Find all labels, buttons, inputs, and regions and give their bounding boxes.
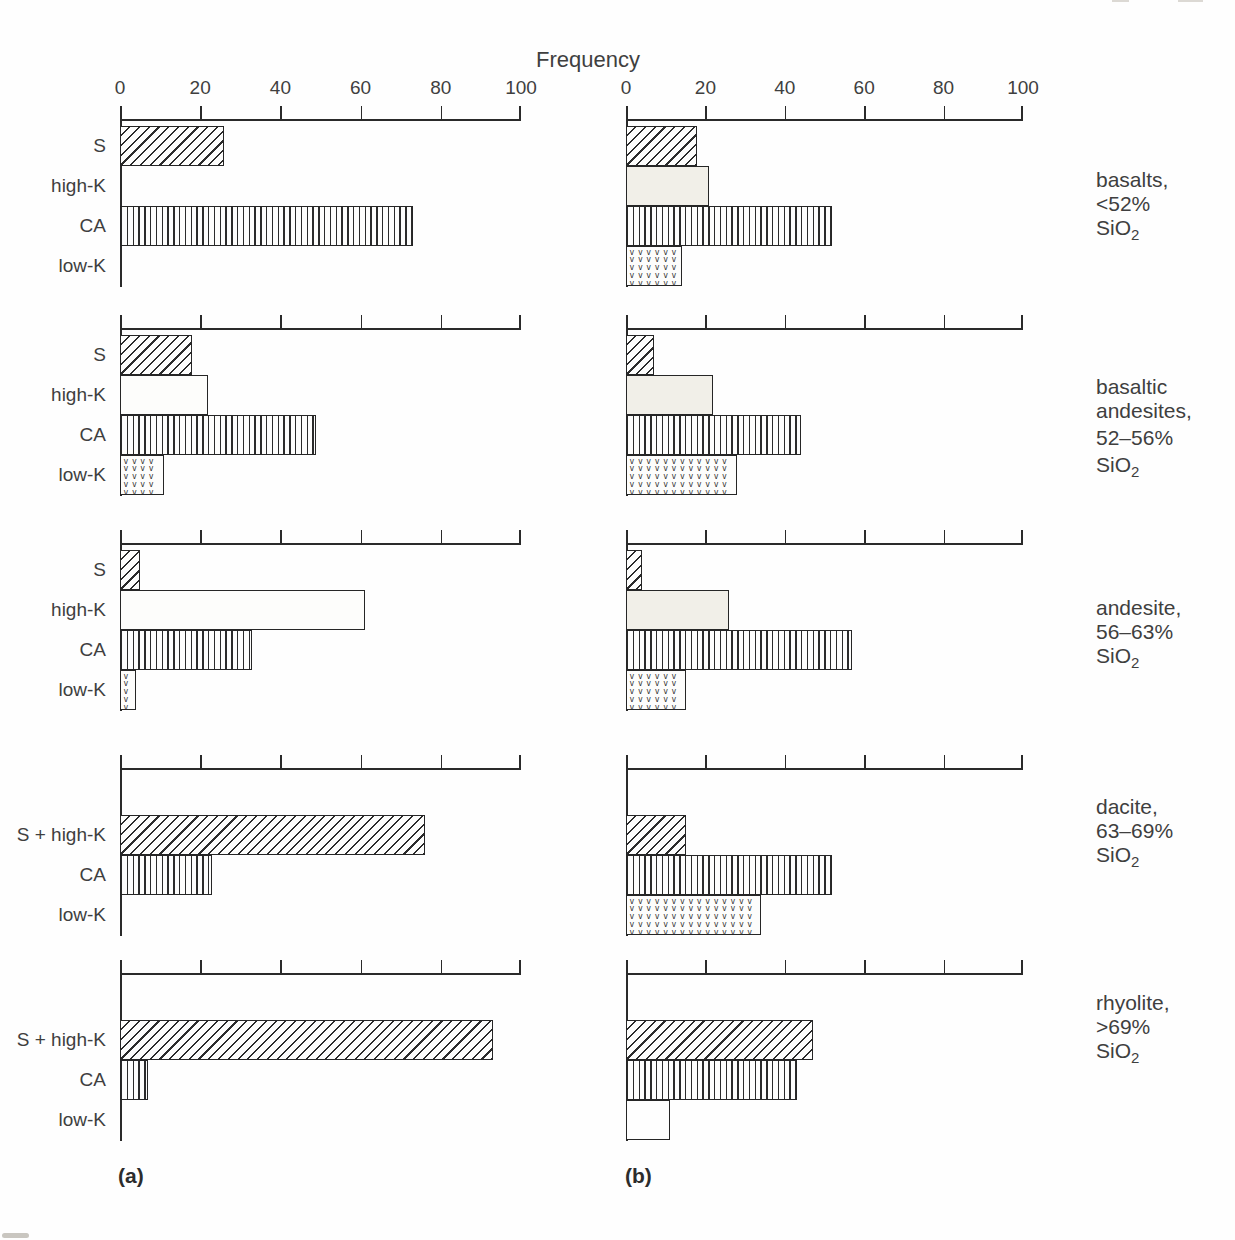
axis-tick <box>361 530 363 543</box>
axis-tick <box>1021 960 1023 973</box>
bar-label-ca: CA <box>4 630 106 670</box>
bar-label-low-k: low-K <box>4 455 106 495</box>
caption-formula: SiO2 <box>1096 644 1231 675</box>
bar-label-s-high-k: S + high-K <box>4 1020 106 1060</box>
caption-line: basalts, <box>1096 168 1231 192</box>
bar-s-high-k <box>120 815 425 855</box>
axis-tick-label: 100 <box>505 77 537 99</box>
caption-formula: SiO2 <box>1096 216 1231 247</box>
axis-tick <box>441 315 443 328</box>
axis-tick <box>441 960 443 973</box>
axis-tick <box>441 106 443 119</box>
axis-tick <box>785 315 787 328</box>
bar-label-low-k: low-K <box>4 895 106 935</box>
axis-tick <box>864 315 866 328</box>
axis-tick <box>280 960 282 973</box>
caption-line: <52% <box>1096 192 1231 216</box>
axis-tick <box>519 960 521 973</box>
axis-tick <box>705 106 707 119</box>
axis-tick <box>441 530 443 543</box>
axis-tick <box>785 960 787 973</box>
axis-tick-label: 80 <box>430 77 451 99</box>
x-axis-line <box>626 973 1023 975</box>
caption-line: 56–63% <box>1096 620 1231 644</box>
axis-tick-label: 20 <box>695 77 716 99</box>
axis-tick <box>705 530 707 543</box>
bar-ca <box>626 1060 797 1100</box>
bar-ca <box>626 855 832 895</box>
axis-tick <box>944 315 946 328</box>
caption-line: andesite, <box>1096 596 1231 620</box>
axis-tick <box>1021 530 1023 543</box>
axis-tick-label: 80 <box>933 77 954 99</box>
x-axis-line <box>626 543 1023 545</box>
axis-tick <box>280 106 282 119</box>
axis-tick <box>864 530 866 543</box>
x-axis-line <box>626 119 1023 121</box>
bar-s <box>120 335 192 375</box>
bar-low-k <box>626 1100 670 1140</box>
x-axis-line <box>120 973 521 975</box>
bar-label-s: S <box>4 550 106 590</box>
axis-tick-label: 40 <box>774 77 795 99</box>
bar-high-k <box>626 166 709 206</box>
scan-edge-mark <box>1178 0 1203 2</box>
caption-line: 52–56% <box>1096 426 1231 450</box>
axis-tick-label: 60 <box>350 77 371 99</box>
x-axis-line <box>120 768 521 770</box>
bar-low-k <box>626 670 686 710</box>
caption-line: >69% <box>1096 1015 1231 1039</box>
axis-tick <box>361 315 363 328</box>
axis-tick <box>280 315 282 328</box>
bar-low-k <box>626 246 682 286</box>
bar-s <box>626 550 642 590</box>
bar-s <box>626 126 697 166</box>
axis-tick-label: 0 <box>621 77 632 99</box>
chart-title: Frequency <box>536 47 640 73</box>
axis-tick-label: 40 <box>270 77 291 99</box>
panel-label-b: (b) <box>625 1164 652 1188</box>
row-caption-rhyolite: rhyolite, >69% SiO2 <box>1096 991 1231 1070</box>
bar-ca <box>626 630 852 670</box>
axis-tick <box>785 530 787 543</box>
x-axis-line <box>120 328 521 330</box>
axis-tick-label: 60 <box>854 77 875 99</box>
axis-tick <box>785 755 787 768</box>
axis-tick <box>785 106 787 119</box>
bar-low-k <box>120 455 164 495</box>
bar-s-high-k <box>626 815 686 855</box>
axis-tick <box>200 106 202 119</box>
scan-edge-mark <box>1112 0 1129 2</box>
axis-tick <box>200 755 202 768</box>
panel-label-a: (a) <box>118 1164 144 1188</box>
bar-high-k <box>626 590 729 630</box>
axis-tick <box>519 530 521 543</box>
caption-line: 63–69% <box>1096 819 1231 843</box>
bar-ca <box>120 206 413 246</box>
bar-label-high-k: high-K <box>4 375 106 415</box>
caption-formula: SiO2 <box>1096 843 1231 874</box>
bar-label-low-k: low-K <box>4 246 106 286</box>
axis-tick <box>705 315 707 328</box>
bar-label-s: S <box>4 126 106 166</box>
axis-tick-label: 100 <box>1007 77 1039 99</box>
row-caption-basaltic-andesites: basaltic andesites, 52–56% SiO2 <box>1096 375 1231 484</box>
axis-tick <box>280 755 282 768</box>
bar-label-ca: CA <box>4 415 106 455</box>
axis-tick-label: 0 <box>115 77 126 99</box>
bar-label-high-k: high-K <box>4 166 106 206</box>
axis-tick-label: 20 <box>190 77 211 99</box>
bar-ca <box>120 630 252 670</box>
axis-tick <box>864 960 866 973</box>
axis-tick <box>944 106 946 119</box>
caption-formula: SiO2 <box>1096 1039 1231 1070</box>
axis-tick <box>944 755 946 768</box>
figure-page: Frequency 0 20 40 60 80 100 S high-K CA … <box>0 0 1235 1240</box>
axis-tick <box>200 315 202 328</box>
bar-s-high-k <box>626 1020 813 1060</box>
bar-low-k <box>626 895 761 935</box>
caption-formula: SiO2 <box>1096 453 1231 484</box>
bar-ca <box>120 415 316 455</box>
bar-high-k <box>626 375 713 415</box>
bar-s <box>120 126 224 166</box>
